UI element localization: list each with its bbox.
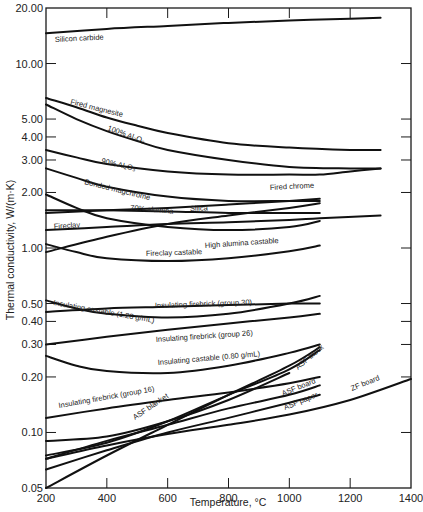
series-label: Silicon carbide <box>55 32 104 44</box>
series-label: Insulating firebrick (group 16) <box>58 384 156 410</box>
y-tick-label: 5.00 <box>22 113 43 125</box>
y-tick-label: 1.00 <box>22 242 43 254</box>
x-axis-label: Temperature, °C <box>190 496 267 508</box>
series-curve <box>46 18 381 33</box>
y-tick-label: 10.00 <box>15 58 43 70</box>
y-tick-label: 3.00 <box>22 154 43 166</box>
series-label: Insulating castable (0.80 g/mL) <box>157 349 260 367</box>
series-label: Fireclay <box>54 220 81 231</box>
series-label: ZF board <box>349 373 381 393</box>
thermal-conductivity-chart: 20040060080010001200140020.0010.005.004.… <box>0 0 423 512</box>
y-tick-label: 4.00 <box>22 131 43 143</box>
series-label: Bonded magchrome <box>84 177 152 202</box>
series-curve <box>46 150 381 175</box>
x-tick-label: 1200 <box>338 492 362 504</box>
x-tick-label: 1000 <box>277 492 301 504</box>
y-tick-label: 0.20 <box>22 371 43 383</box>
y-tick-label: 0.05 <box>22 482 43 494</box>
series-label: Silica <box>190 203 209 213</box>
y-tick-label: 0.10 <box>22 426 43 438</box>
series-label: High alumina castable <box>205 236 279 250</box>
data-curves <box>46 18 411 488</box>
y-tick-label: 0.30 <box>22 338 43 350</box>
series-label: Fireclay castable <box>146 247 203 258</box>
series-label: 70% alumina <box>130 203 175 216</box>
y-tick-label: 0.50 <box>22 298 43 310</box>
series-label: 90% Al₂O₃ <box>101 156 137 173</box>
y-tick-label: 20.00 <box>15 2 43 14</box>
x-tick-label: 1400 <box>399 492 423 504</box>
series-label: Insulating firebrick (group 26) <box>156 328 254 344</box>
series-label: Fired chrome <box>270 181 315 192</box>
x-tick-label: 400 <box>98 492 116 504</box>
y-tick-label: 2.00 <box>22 186 43 198</box>
y-axis-label: Thermal conductivity, W/(m·K) <box>4 180 16 320</box>
x-tick-label: 600 <box>158 492 176 504</box>
series-label: Insulating firebrick (group 30) <box>155 298 253 310</box>
y-tick-label: 0.40 <box>22 315 43 327</box>
